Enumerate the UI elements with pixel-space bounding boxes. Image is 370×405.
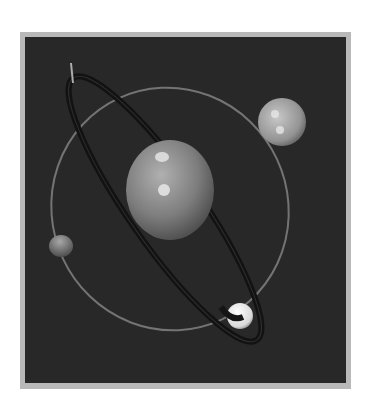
electron-upper-right-sphere [258,98,306,146]
nucleus-sphere [126,140,214,240]
atom-render [25,37,346,383]
electron-left-sphere [49,235,73,257]
image-frame [20,32,351,389]
electron-bottom-sphere [221,303,253,329]
atom-illustration [25,37,346,383]
